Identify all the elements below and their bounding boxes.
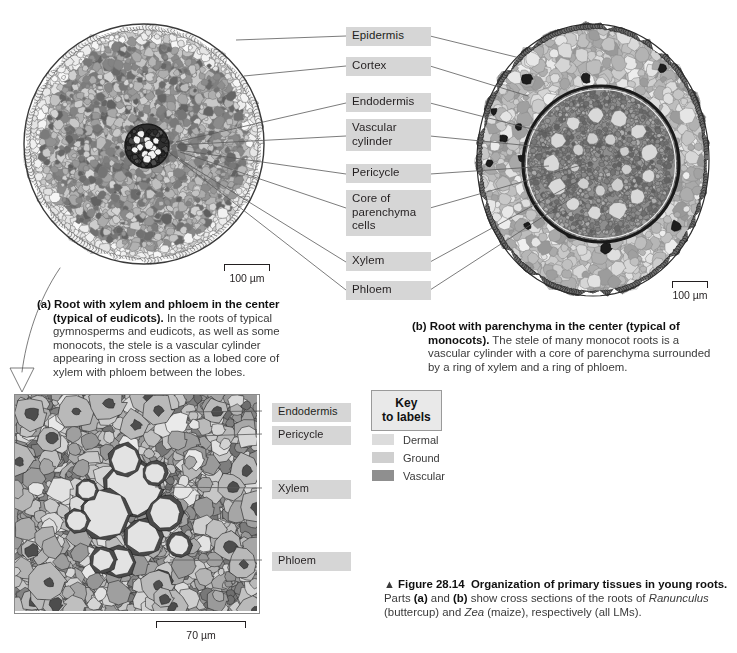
label-xylem[interactable]: Xylem	[346, 252, 431, 271]
label-vascular-cylinder[interactable]: Vascular cylinder	[346, 119, 431, 151]
figure-body-4: (buttercup) and	[384, 606, 464, 618]
figure-caption-triangle: ▲	[384, 578, 395, 590]
key-label-dermal: Dermal	[403, 434, 438, 446]
key-label-ground: Ground	[403, 452, 440, 464]
figure-body-2: and	[428, 592, 453, 604]
key-label-vascular: Vascular	[403, 470, 445, 482]
key-item-dermal: Dermal	[372, 434, 438, 446]
scale-bar-label-b: 100 µm	[672, 289, 707, 301]
micrograph-eudicot-root	[18, 18, 270, 270]
label-cortex[interactable]: Cortex	[346, 57, 431, 76]
key-item-vascular: Vascular	[372, 470, 445, 482]
label-endodermis[interactable]: Endodermis	[346, 93, 431, 112]
inset-label-phloem[interactable]: Phloem	[272, 552, 351, 571]
figure-title: Organization of primary tissues in young…	[471, 578, 727, 590]
key-item-ground: Ground	[372, 452, 440, 464]
figure-caption: ▲ Figure 28.14 Organization of primary t…	[384, 578, 734, 619]
scale-bar-label-c: 70 µm	[186, 629, 215, 641]
inset-label-pericycle[interactable]: Pericycle	[272, 426, 351, 445]
key-to-labels-box: Key to labels	[371, 390, 442, 431]
figure-species-1: Ranunculus	[649, 592, 709, 604]
label-pericycle[interactable]: Pericycle	[346, 164, 431, 183]
scale-bar-line-b	[672, 281, 708, 288]
micrograph-monocot-root	[468, 14, 718, 302]
label-phloem[interactable]: Phloem	[346, 281, 431, 300]
figure-body-3: show cross sections of the roots of	[468, 592, 649, 604]
scale-bar-line-c	[156, 621, 246, 628]
label-epidermis[interactable]: Epidermis	[346, 27, 431, 46]
scale-bar-inset: 70 µm	[146, 621, 256, 641]
key-swatch-ground	[372, 452, 394, 463]
clipped-header-strip	[0, 0, 737, 8]
figure-ref-b: (b)	[453, 592, 468, 604]
figure-ref-a: (a)	[414, 592, 428, 604]
scale-bar-eudicot: 100 µm	[212, 264, 282, 284]
scale-bar-line-a	[224, 264, 270, 271]
key-title-line2: to labels	[382, 410, 431, 424]
scale-bar-monocot: 100 µm	[655, 281, 725, 301]
caption-a-letter: (a)	[37, 298, 51, 310]
micrograph-stele-closeup	[15, 395, 257, 611]
inset-label-xylem[interactable]: Xylem	[272, 480, 351, 499]
figure-species-2: Zea	[464, 606, 484, 618]
key-swatch-dermal	[372, 434, 394, 445]
caption-panel-b: (b) Root with parenchyma in the center (…	[412, 320, 718, 374]
figure-number: Figure 28.14	[398, 578, 464, 590]
figure-body-1: Parts	[384, 592, 414, 604]
label-core-parenchyma[interactable]: Core of parenchyma cells	[346, 190, 431, 236]
caption-panel-a: (a) Root with xylem and phloem in the ce…	[37, 298, 309, 380]
figure-body-5: (maize), respectively (all LMs).	[484, 606, 642, 618]
caption-b-letter: (b)	[412, 320, 427, 332]
scale-bar-label-a: 100 µm	[229, 272, 264, 284]
key-swatch-vascular	[372, 470, 394, 481]
key-title-line1: Key	[395, 396, 417, 410]
inset-label-endodermis[interactable]: Endodermis	[272, 403, 351, 422]
